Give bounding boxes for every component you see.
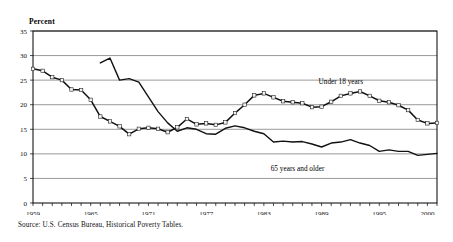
svg-text:2000: 2000 [420, 210, 435, 215]
svg-text:1983: 1983 [257, 210, 272, 215]
chart-figure: Percent 05101520253035 19591965197119771… [0, 0, 453, 242]
svg-text:1965: 1965 [84, 210, 99, 215]
svg-text:30: 30 [20, 52, 28, 60]
svg-text:Under 18 years: Under 18 years [319, 77, 364, 86]
plot-frame [33, 31, 437, 203]
svg-text:15: 15 [20, 126, 28, 134]
svg-text:0: 0 [24, 200, 28, 208]
source-note: Source: U.S. Census Bureau, Historical P… [18, 221, 183, 229]
svg-text:1989: 1989 [315, 210, 330, 215]
series-annotations: Under 18 years65 years and older [271, 77, 364, 173]
svg-text:65 years and older: 65 years and older [271, 164, 325, 173]
plot-area: 05101520253035 1959196519711977198319891… [0, 0, 453, 215]
svg-text:25: 25 [20, 77, 28, 85]
svg-text:20: 20 [20, 101, 28, 109]
svg-text:1971: 1971 [141, 210, 156, 215]
x-axis-tick-labels: 19591965197119771983198919952000 [26, 210, 435, 215]
svg-text:1977: 1977 [199, 210, 214, 215]
svg-text:1995: 1995 [372, 210, 387, 215]
svg-text:10: 10 [20, 150, 28, 158]
svg-text:5: 5 [24, 175, 28, 183]
svg-text:1959: 1959 [26, 210, 41, 215]
series-line-under-18-years [33, 69, 437, 134]
y-axis-tick-labels: 05101520253035 [20, 28, 28, 208]
series-line-65-years-and-older [100, 58, 437, 155]
svg-text:35: 35 [20, 28, 28, 36]
poverty-rate-line-chart: 05101520253035 1959196519711977198319891… [0, 0, 453, 215]
